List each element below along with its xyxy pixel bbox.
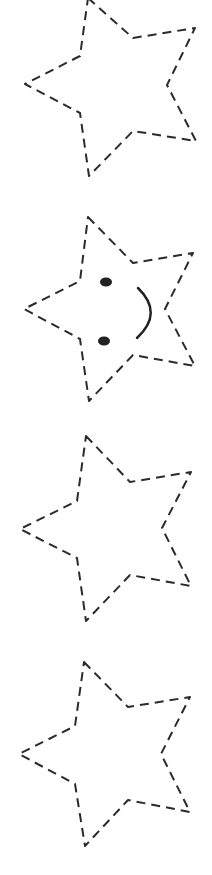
star-smile-mouth <box>137 288 151 338</box>
dashed-star-outline-3 <box>20 436 191 621</box>
star-eye-lower <box>98 337 110 346</box>
dashed-star-outline-1 <box>25 0 196 176</box>
dashed-star-outline-2 <box>24 217 195 401</box>
smiling-star <box>24 217 195 401</box>
star-eye-upper <box>100 278 112 287</box>
dashed-star-outline-4 <box>19 662 190 846</box>
star-tracing-worksheet <box>0 0 212 875</box>
